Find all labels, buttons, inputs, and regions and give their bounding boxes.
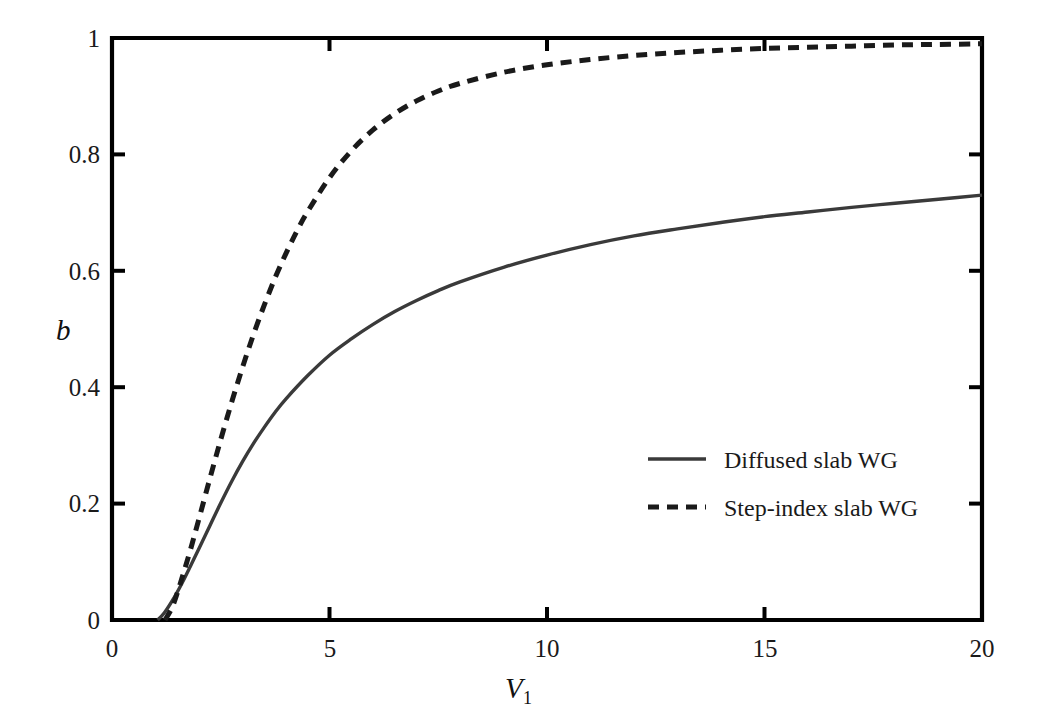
series-line-step-index-slab-wg — [165, 44, 982, 620]
series-line-diffused-slab-wg — [158, 195, 982, 620]
x-axis-title-subscript: 1 — [523, 688, 532, 708]
chart-canvas — [0, 0, 1043, 728]
y-tick-label-04: 0.4 — [40, 375, 100, 400]
y-tick-label-08: 0.8 — [40, 142, 100, 167]
x-tick-label-0: 0 — [82, 636, 142, 661]
x-axis-title-base: V — [505, 672, 523, 704]
y-tick-label-02: 0.2 — [40, 491, 100, 516]
x-tick-label-5: 5 — [300, 636, 360, 661]
figure-container: 0 0.2 0.4 0.6 0.8 1 0 5 10 15 20 b V1 Di… — [0, 0, 1043, 728]
axis-frame — [112, 38, 982, 620]
legend-label-diffused-slab-wg: Diffused slab WG — [724, 448, 898, 472]
tick-marks — [112, 38, 982, 620]
y-tick-label-06: 0.6 — [40, 259, 100, 284]
legend-line-samples — [648, 459, 706, 507]
data-series-layer — [158, 44, 982, 620]
x-tick-label-20: 20 — [952, 636, 1012, 661]
legend-label-step-index-slab-wg: Step-index slab WG — [724, 496, 918, 520]
y-tick-label-1: 1 — [40, 26, 100, 51]
x-tick-label-15: 15 — [735, 636, 795, 661]
y-tick-label-0: 0 — [40, 608, 100, 633]
x-axis-title: V1 — [505, 674, 532, 703]
x-tick-label-10: 10 — [517, 636, 577, 661]
plot-border — [112, 38, 982, 620]
y-axis-title: b — [56, 316, 71, 345]
